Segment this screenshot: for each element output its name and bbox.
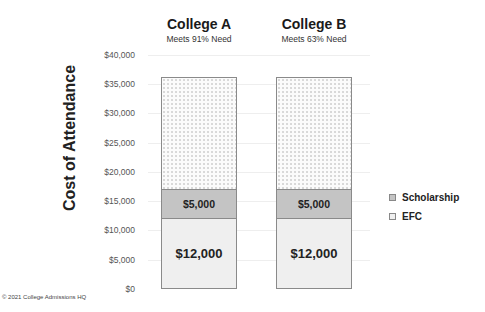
legend-item-scholarship: Scholarship xyxy=(389,192,459,203)
college-b-subtitle: Meets 63% Need xyxy=(254,34,374,44)
legend: Scholarship EFC xyxy=(389,192,459,222)
segment-efc: $12,000 xyxy=(161,218,237,289)
legend-label: EFC xyxy=(402,211,422,222)
segment-efc: $12,000 xyxy=(276,218,352,289)
legend-label: Scholarship xyxy=(402,192,459,203)
y-tick: $40,000 xyxy=(75,50,135,60)
gridline xyxy=(148,55,370,56)
y-tick: $15,000 xyxy=(75,196,135,206)
y-tick: $35,000 xyxy=(75,79,135,89)
segment-scholarship: $5,000 xyxy=(161,189,237,219)
y-tick: $10,000 xyxy=(75,225,135,235)
y-tick: $20,000 xyxy=(75,167,135,177)
college-a-subtitle: Meets 91% Need xyxy=(139,34,259,44)
segment-remaining xyxy=(161,77,237,190)
copyright: © 2021 College Admissions HQ xyxy=(2,294,86,300)
legend-swatch-icon xyxy=(389,213,396,220)
legend-swatch-icon xyxy=(389,194,396,201)
y-tick: $30,000 xyxy=(75,108,135,118)
bar-college-b: $5,000 $12,000 xyxy=(276,77,352,289)
legend-item-efc: EFC xyxy=(389,211,459,222)
y-tick: $25,000 xyxy=(75,138,135,148)
bar-college-a: $5,000 $12,000 xyxy=(161,77,237,289)
segment-remaining xyxy=(276,77,352,190)
y-tick: $5,000 xyxy=(75,255,135,265)
y-tick: $0 xyxy=(75,284,135,294)
segment-scholarship: $5,000 xyxy=(276,189,352,219)
college-a-title: College A xyxy=(139,16,259,32)
college-b-title: College B xyxy=(254,16,374,32)
